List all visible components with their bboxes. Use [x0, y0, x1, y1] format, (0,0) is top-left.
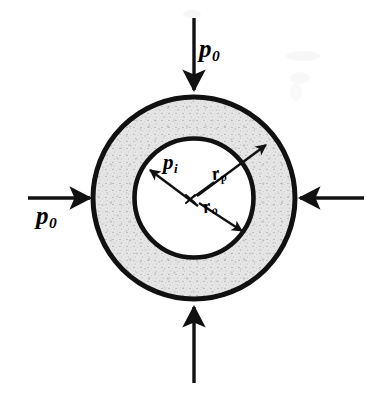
label-p0-top-subscript: 0: [212, 47, 220, 64]
figure-thick-walled-cylinder: p0 p0 pi rp ro: [0, 0, 383, 397]
label-internal-pressure: pi: [163, 152, 178, 175]
label-external-pressure-left: p0: [36, 203, 57, 231]
label-pi-symbol: p: [163, 150, 174, 174]
label-pi-subscript: i: [174, 161, 178, 176]
diagram-canvas: [0, 0, 383, 397]
label-p0-left-symbol: p: [36, 202, 49, 229]
bore-circle: [135, 139, 254, 258]
label-p0-top-symbol: p: [199, 35, 212, 62]
label-external-pressure-top: p0: [199, 36, 220, 64]
label-p0-left-subscript: 0: [49, 214, 57, 231]
